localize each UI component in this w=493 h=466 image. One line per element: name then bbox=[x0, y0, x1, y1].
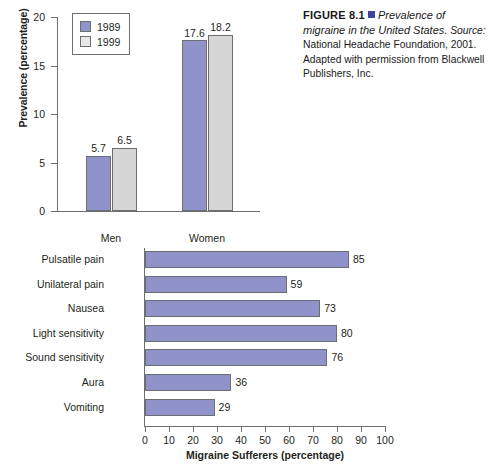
bar-women-1999[interactable] bbox=[208, 35, 233, 212]
category-label-pulsatile-pain: Pulsatile pain bbox=[42, 253, 104, 265]
y-tick-label: 20 bbox=[3, 11, 45, 23]
x-axis-title: Migraine Sufferers (percentage) bbox=[145, 449, 385, 461]
category-label-nausea: Nausea bbox=[68, 302, 104, 314]
category-label-vomiting: Vomiting bbox=[64, 401, 104, 413]
bar-value-vomiting: 29 bbox=[219, 401, 231, 413]
bar-pulsatile-pain[interactable] bbox=[145, 251, 349, 268]
x-tick bbox=[361, 427, 362, 432]
bar-value-sound-sensitivity: 76 bbox=[331, 351, 343, 363]
bar-value-nausea: 73 bbox=[324, 302, 336, 314]
figure-caption: FIGURE 8.1Prevalence of migraine in the … bbox=[303, 8, 489, 81]
y-tick-label: 10 bbox=[3, 108, 45, 120]
x-tick bbox=[313, 427, 314, 432]
legend-label-1999: 1999 bbox=[97, 36, 120, 48]
x-tick bbox=[217, 427, 218, 432]
x-tick bbox=[265, 427, 266, 432]
bar-value-men-1989: 5.7 bbox=[86, 142, 111, 154]
bar-men-1989[interactable] bbox=[86, 156, 111, 211]
category-label-sound-sensitivity: Sound sensitivity bbox=[25, 351, 104, 363]
bar-light-sensitivity[interactable] bbox=[145, 325, 337, 342]
category-label-aura: Aura bbox=[82, 376, 104, 388]
category-label-light-sensitivity: Light sensitivity bbox=[33, 327, 104, 339]
legend-swatch-icon-1999 bbox=[80, 36, 91, 47]
bar-value-men-1999: 6.5 bbox=[112, 134, 137, 146]
bar-nausea[interactable] bbox=[145, 300, 320, 317]
bar-value-pulsatile-pain: 85 bbox=[353, 253, 365, 265]
x-tick bbox=[193, 427, 194, 432]
bar-vomiting[interactable] bbox=[145, 399, 215, 416]
y-tick bbox=[51, 211, 57, 212]
bar-unilateral-pain[interactable] bbox=[145, 276, 287, 293]
bar-value-aura: 36 bbox=[235, 376, 247, 388]
bar-men-1999[interactable] bbox=[112, 148, 137, 211]
legend-item-1999[interactable]: 1999 bbox=[80, 34, 120, 49]
legend-item-1989[interactable]: 1989 bbox=[80, 19, 120, 34]
bar-value-unilateral-pain: 59 bbox=[291, 278, 303, 290]
bar-value-women-1989: 17.6 bbox=[180, 27, 209, 39]
x-tick bbox=[289, 427, 290, 432]
y-tick-label: 5 bbox=[3, 157, 45, 169]
bar-aura[interactable] bbox=[145, 374, 231, 391]
bar-value-light-sensitivity: 80 bbox=[341, 327, 353, 339]
chart-migraine-symptoms: 85 59 73 80 76 36 29 Pulsatile pain Unil… bbox=[0, 244, 493, 466]
bar-sound-sensitivity[interactable] bbox=[145, 349, 327, 366]
x-tick bbox=[145, 427, 146, 432]
x-tick bbox=[337, 427, 338, 432]
figure-number: FIGURE 8.1 bbox=[303, 9, 365, 21]
legend-swatch-icon-1989 bbox=[80, 21, 91, 32]
filled-square-icon bbox=[368, 11, 375, 18]
category-label-unilateral-pain: Unilateral pain bbox=[37, 278, 104, 290]
chart-prevalence-by-sex: Prevalence (percentage) 20 15 10 5 0 5.7… bbox=[0, 0, 285, 236]
source-text: National Headache Foundation, 2001. Adap… bbox=[303, 39, 484, 78]
x-tick-label: 100 bbox=[370, 434, 400, 446]
legend-label-1989: 1989 bbox=[97, 21, 120, 33]
source-word: Source: bbox=[450, 25, 486, 36]
y-tick-label: 15 bbox=[3, 60, 45, 72]
bar-women-1989[interactable] bbox=[182, 40, 207, 211]
x-tick bbox=[169, 427, 170, 432]
category-label-women: Women bbox=[167, 232, 247, 244]
category-label-men: Men bbox=[71, 232, 151, 244]
x-tick bbox=[385, 427, 386, 432]
y-tick-label: 0 bbox=[3, 205, 45, 217]
bar-value-women-1999: 18.2 bbox=[206, 21, 235, 33]
legend: 1989 1999 bbox=[72, 13, 130, 55]
x-tick bbox=[241, 427, 242, 432]
plot-area: 85 59 73 80 76 36 29 bbox=[145, 248, 385, 426]
